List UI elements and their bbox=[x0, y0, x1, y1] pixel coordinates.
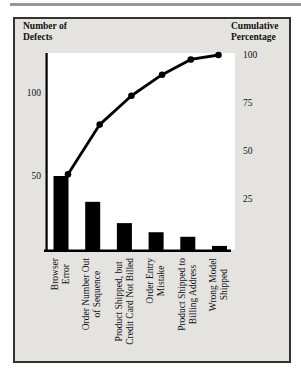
right-axis-tick: 50 bbox=[243, 146, 253, 157]
page: Number of Defects Cumulative Percentage … bbox=[0, 0, 301, 380]
category-label: Browser Error bbox=[50, 258, 72, 290]
right-axis-tick: 100 bbox=[243, 50, 257, 61]
right-axis-tick: 75 bbox=[243, 98, 253, 109]
left-axis-tick: 50 bbox=[17, 171, 41, 182]
chart-box bbox=[13, 17, 291, 363]
category-label: Order Number Out of Sequence bbox=[82, 258, 104, 330]
category-label: Wrong Model Shipped bbox=[209, 258, 231, 311]
category-label: Product Shipped to Billing Address bbox=[177, 258, 199, 331]
category-label: Product Shipped, but Credit Card Not Bil… bbox=[113, 258, 135, 345]
right-axis-tick: 25 bbox=[243, 194, 253, 205]
category-label: Order Entry Mistake bbox=[145, 258, 167, 304]
left-axis-title: Number of Defects bbox=[23, 21, 67, 43]
page-top-rule bbox=[10, 3, 301, 6]
left-axis-tick: 100 bbox=[17, 88, 41, 99]
right-axis-title: Cumulative Percentage bbox=[231, 21, 279, 43]
